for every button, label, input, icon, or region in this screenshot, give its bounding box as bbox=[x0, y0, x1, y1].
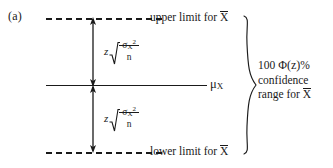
percent-symbol: % bbox=[300, 59, 310, 71]
lower-margin-fraction: σX2 n bbox=[119, 112, 139, 130]
lower-margin-expression: z σX2 n bbox=[104, 107, 139, 133]
lower-limit-caption: lower limit for X bbox=[150, 145, 228, 158]
mean-subscript: X bbox=[217, 81, 224, 91]
lower-margin-arrow bbox=[86, 84, 100, 154]
mean-symbol: μ bbox=[210, 77, 217, 91]
confidence-range-caption: 100 Φ(z)% confidence range for X bbox=[258, 58, 311, 102]
confidence-interval-diagram: (a) upper limit for X z σX2 n μX z σX2 n… bbox=[0, 0, 333, 168]
population-mean-line bbox=[46, 85, 207, 86]
lower-margin-numerator: σX2 bbox=[121, 104, 137, 119]
upper-sigma-exponent: 2 bbox=[132, 38, 136, 46]
upper-limit-caption-variable: X bbox=[220, 11, 228, 23]
confidence-level-multiplier: 100 bbox=[258, 59, 278, 71]
panel-label: (a) bbox=[8, 9, 22, 23]
upper-limit-dashed-line bbox=[46, 18, 162, 20]
confidence-range-brace bbox=[240, 14, 260, 156]
upper-limit-caption-text: upper limit for bbox=[150, 11, 220, 23]
confidence-range-line-2: confidence bbox=[258, 73, 311, 88]
confidence-range-variable: X bbox=[303, 88, 311, 100]
lower-sigma-exponent: 2 bbox=[132, 105, 136, 113]
upper-margin-denominator: n bbox=[121, 52, 137, 63]
mean-label: μX bbox=[210, 77, 223, 93]
upper-margin-expression: z σX2 n bbox=[104, 40, 139, 66]
lower-limit-caption-variable: X bbox=[220, 145, 228, 157]
lower-limit-caption-text: lower limit for bbox=[150, 145, 220, 157]
lower-limit-dashed-line bbox=[46, 152, 162, 154]
confidence-range-line-3: range for X bbox=[258, 87, 311, 102]
lower-margin-denominator: n bbox=[121, 119, 137, 130]
confidence-range-line-1: 100 Φ(z)% bbox=[258, 58, 311, 73]
upper-margin-numerator: σX2 bbox=[121, 37, 137, 52]
confidence-range-line-3-text: range for bbox=[258, 88, 303, 100]
lower-margin-z-coefficient: z bbox=[104, 112, 108, 124]
upper-margin-z-coefficient: z bbox=[104, 45, 108, 57]
upper-margin-fraction: σX2 n bbox=[119, 45, 139, 63]
upper-limit-caption: upper limit for X bbox=[150, 11, 228, 24]
phi-function-symbol: Φ(z) bbox=[278, 58, 300, 72]
upper-margin-arrow bbox=[86, 16, 100, 88]
